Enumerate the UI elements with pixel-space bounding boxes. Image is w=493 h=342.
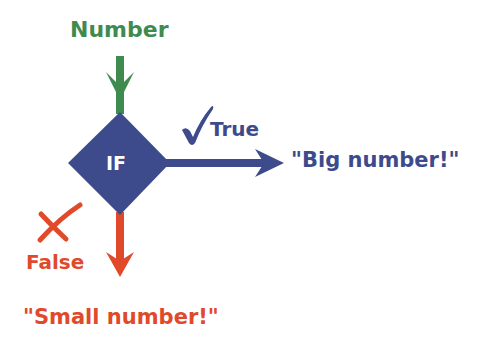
input-arrow — [106, 56, 134, 114]
input-label: Number — [70, 17, 169, 42]
true-arrow — [165, 149, 284, 177]
decision-label: IF — [106, 152, 126, 174]
true-label: True — [210, 117, 259, 141]
false-arrow — [106, 212, 134, 277]
false-output: "Small number!" — [23, 305, 219, 329]
false-label: False — [26, 250, 84, 274]
true-output: "Big number!" — [291, 148, 459, 172]
checkmark-icon — [182, 106, 213, 145]
cross-icon — [40, 205, 80, 240]
